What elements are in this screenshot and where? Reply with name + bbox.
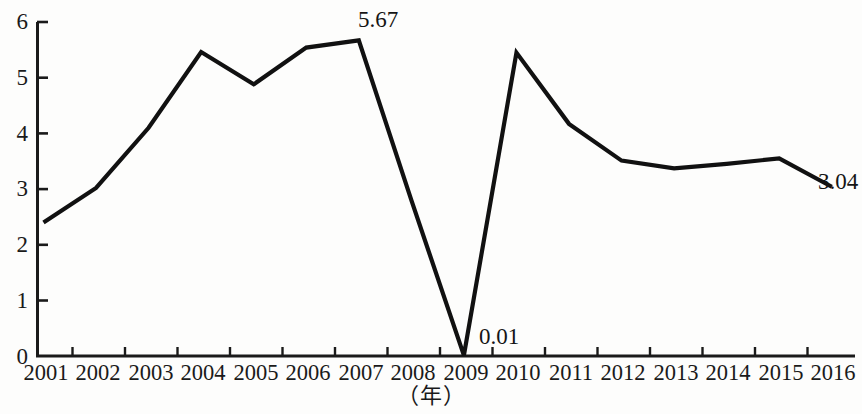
x-tick-label-2001: 2001 (20, 362, 72, 385)
x-tick-label-2015: 2015 (755, 362, 807, 385)
x-tick-label-2011: 2011 (545, 362, 597, 385)
annotation-peak-2007: 5.67 (358, 8, 398, 31)
x-tick-label-2005: 2005 (230, 362, 282, 385)
line-chart: 6 5 4 3 2 1 0 2001 2002 2003 2004 2005 2… (0, 0, 862, 414)
x-tick-label-2008: 2008 (387, 362, 439, 385)
y-tick-label-4: 4 (2, 122, 28, 145)
y-tick-label-5: 5 (2, 66, 28, 89)
x-tick-label-2004: 2004 (177, 362, 229, 385)
x-tick-label-2006: 2006 (282, 362, 334, 385)
y-tick-label-6: 6 (2, 10, 28, 33)
x-tick-label-2016: 2016 (807, 362, 859, 385)
x-tick-label-2009: 2009 (440, 362, 492, 385)
x-tick-label-2013: 2013 (650, 362, 702, 385)
y-tick-label-1: 1 (2, 289, 28, 312)
annotation-end-2016: 3.04 (818, 170, 858, 193)
plot-area (0, 0, 862, 414)
y-tick-label-3: 3 (2, 177, 28, 200)
data-line-series-1 (44, 40, 832, 355)
annotation-trough-2009: 0.01 (479, 325, 519, 348)
x-tick-label-2014: 2014 (702, 362, 754, 385)
x-axis-title: （年） (0, 384, 862, 408)
x-tick-label-2007: 2007 (335, 362, 387, 385)
x-tick-label-2010: 2010 (492, 362, 544, 385)
x-tick-label-2012: 2012 (597, 362, 649, 385)
y-tick-label-2: 2 (2, 233, 28, 256)
x-tick-label-2002: 2002 (72, 362, 124, 385)
x-tick-label-2003: 2003 (125, 362, 177, 385)
